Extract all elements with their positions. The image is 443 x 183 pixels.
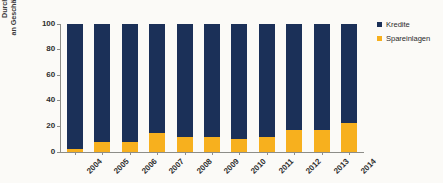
bar-segment-spareinlagen[interactable] [122, 142, 138, 152]
legend-item[interactable]: Spareinlagen [377, 32, 443, 44]
bar-segment-kredite[interactable] [149, 24, 165, 133]
bar-segment-kredite[interactable] [341, 24, 357, 123]
stacked-bar-chart: Durchschnittlicher Anteil an Geschäftsvo… [0, 0, 443, 183]
y-tick-label: 40 [46, 95, 55, 104]
x-tick-mark [239, 152, 240, 155]
x-tick-mark [75, 152, 76, 155]
legend-label: Kredite [386, 20, 410, 29]
y-tick-mark [57, 100, 60, 101]
x-tick-label: 2009 [222, 157, 241, 176]
y-tick-label: 80 [46, 44, 55, 53]
x-tick-label: 2010 [250, 157, 269, 176]
legend-color-swatch [377, 22, 382, 27]
bar-segment-kredite[interactable] [286, 24, 302, 130]
y-tick-label: 0 [51, 147, 55, 156]
bar-segment-kredite[interactable] [122, 24, 138, 142]
x-tick-label: 2007 [167, 157, 186, 176]
bar-series-container [61, 24, 363, 152]
x-tick-label: 2013 [332, 157, 351, 176]
x-tick-label: 2012 [304, 157, 323, 176]
y-tick-label: 100 [42, 19, 55, 28]
cropped-chart-title [62, 0, 312, 3]
y-tick-label: 60 [46, 70, 55, 79]
y-tick-mark [57, 152, 60, 153]
bar-segment-spareinlagen[interactable] [177, 137, 193, 152]
bar-segment-kredite[interactable] [314, 24, 330, 130]
x-tick-label: 2006 [140, 157, 159, 176]
bar-segment-spareinlagen[interactable] [149, 133, 165, 152]
x-tick-mark [349, 152, 350, 155]
x-tick-mark [157, 152, 158, 155]
x-tick-mark [130, 152, 131, 155]
plot-area: 020406080100 200420052006200720082009201… [61, 24, 363, 152]
legend-color-swatch [377, 36, 382, 41]
x-tick-mark [185, 152, 186, 155]
y-tick-label: 20 [46, 121, 55, 130]
x-tick-label: 2014 [359, 157, 378, 176]
bar-segment-kredite[interactable] [177, 24, 193, 137]
bar-segment-spareinlagen[interactable] [286, 130, 302, 152]
legend-item[interactable]: Kredite [377, 18, 443, 30]
bar-segment-spareinlagen[interactable] [94, 142, 110, 152]
y-tick-mark [57, 75, 60, 76]
bar-segment-kredite[interactable] [94, 24, 110, 142]
bar-segment-spareinlagen[interactable] [259, 137, 275, 152]
bar-segment-kredite[interactable] [204, 24, 220, 137]
x-tick-label: 2008 [195, 157, 214, 176]
bar-segment-spareinlagen[interactable] [231, 139, 247, 152]
bar-segment-spareinlagen[interactable] [204, 137, 220, 152]
bar-segment-spareinlagen[interactable] [314, 130, 330, 152]
x-tick-mark [294, 152, 295, 155]
y-axis-title-line-2: an Geschäftsvolumen von MFI in % [9, 0, 18, 42]
y-tick-mark [57, 24, 60, 25]
x-tick-mark [322, 152, 323, 155]
x-tick-mark [212, 152, 213, 155]
chart-legend: KrediteSpareinlagen [377, 18, 443, 46]
x-tick-mark [102, 152, 103, 155]
legend-label: Spareinlagen [386, 34, 430, 43]
y-axis-title-line-1: Durchschnittlicher Anteil [0, 0, 9, 42]
x-tick-label: 2005 [112, 157, 131, 176]
bar-segment-kredite[interactable] [259, 24, 275, 137]
x-tick-label: 2011 [277, 157, 295, 175]
bar-segment-kredite[interactable] [231, 24, 247, 139]
x-tick-mark [267, 152, 268, 155]
y-axis-title-line-3: ( Median ) [18, 0, 27, 42]
y-axis-title: Durchschnittlicher Anteil an Geschäftsvo… [0, 0, 28, 42]
bar-segment-kredite[interactable] [67, 24, 83, 149]
y-tick-mark [57, 49, 60, 50]
y-tick-mark [57, 126, 60, 127]
x-tick-label: 2004 [85, 157, 104, 176]
bar-segment-spareinlagen[interactable] [341, 123, 357, 152]
